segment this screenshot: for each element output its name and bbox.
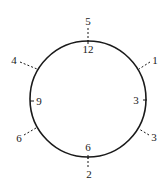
inner-label-left: 9 — [36, 96, 42, 107]
outer-label-lower-left: 6 — [16, 133, 22, 144]
clock-diagram: 12 3 6 9 5 1 3 2 6 4 — [0, 0, 165, 188]
leader-line-upper-left — [20, 62, 37, 69]
clock-diagram-canvas — [0, 0, 165, 188]
outer-label-bottom: 2 — [86, 169, 92, 180]
leader-line-lower-left — [24, 128, 36, 135]
outer-label-upper-left: 4 — [11, 55, 17, 66]
inner-label-top: 12 — [83, 44, 94, 55]
outer-label-lower-right: 3 — [151, 132, 157, 143]
inner-label-right: 3 — [133, 95, 139, 106]
outer-label-upper-right: 1 — [152, 55, 158, 66]
outer-label-top: 5 — [85, 16, 91, 27]
leader-line-upper-right — [139, 62, 150, 69]
inner-label-bottom: 6 — [85, 142, 91, 153]
leader-line-lower-right — [139, 129, 149, 135]
